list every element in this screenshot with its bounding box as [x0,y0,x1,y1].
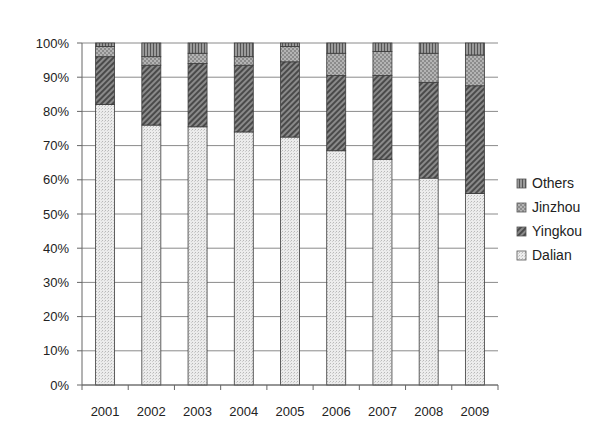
x-tick-label: 2004 [229,404,258,419]
legend: OthersJinzhouYingkouDalian [517,175,582,263]
segment-dalian [373,159,392,385]
segment-dalian [234,132,253,385]
bar-2007 [373,43,392,385]
segment-jinzhou [188,53,207,63]
y-tick-label: 50% [43,207,69,222]
segment-yingkou [465,86,484,194]
segment-yingkou [234,65,253,132]
legend-item-dalian: Dalian [517,247,572,263]
segment-jinzhou [281,46,300,61]
y-tick-label: 90% [43,70,69,85]
y-axis: 0%10%20%30%40%50%60%70%80%90%100% [36,36,82,393]
segment-jinzhou [373,52,392,76]
segment-others [419,43,438,53]
segment-dalian [465,193,484,385]
bar-2002 [142,43,161,385]
y-tick-label: 40% [43,241,69,256]
legend-label: Yingkou [532,223,582,239]
bars [96,43,485,385]
bar-2004 [234,43,253,385]
legend-item-jinzhou: Jinzhou [517,199,580,215]
segment-jinzhou [96,46,115,56]
y-tick-label: 30% [43,275,69,290]
y-tick-label: 80% [43,104,69,119]
bar-2005 [281,43,300,385]
segment-jinzhou [234,57,253,66]
segment-dalian [96,105,115,385]
x-tick-label: 2003 [183,404,212,419]
y-tick-label: 60% [43,172,69,187]
segment-yingkou [327,75,346,150]
segment-yingkou [142,65,161,125]
y-tick-label: 10% [43,343,69,358]
y-tick-label: 70% [43,138,69,153]
legend-label: Jinzhou [532,199,580,215]
x-tick-label: 2007 [368,404,397,419]
segment-yingkou [96,57,115,105]
y-tick-label: 0% [50,378,69,393]
segment-dalian [142,125,161,385]
x-tick-label: 2008 [414,404,443,419]
segment-dalian [188,127,207,385]
legend-swatch [517,251,526,260]
segment-yingkou [281,62,300,137]
bar-2009 [465,43,484,385]
segment-others [373,43,392,52]
x-tick-label: 2001 [91,404,120,419]
segment-others [142,43,161,57]
x-tick-label: 2006 [322,404,351,419]
segment-jinzhou [327,53,346,75]
segment-others [234,43,253,57]
legend-item-others: Others [517,175,574,191]
segment-yingkou [373,75,392,159]
y-tick-label: 100% [36,36,70,51]
legend-swatch [517,203,526,212]
bar-2006 [327,43,346,385]
legend-swatch [517,179,526,188]
segment-others [327,43,346,53]
x-axis: 200120022003200420052006200720082009 [82,385,498,419]
segment-dalian [419,178,438,385]
x-tick-label: 2009 [460,404,489,419]
legend-item-yingkou: Yingkou [517,223,582,239]
legend-swatch [517,227,526,236]
stacked-bar-chart: 0%10%20%30%40%50%60%70%80%90%100% 200120… [0,0,612,438]
segment-others [281,43,300,46]
x-tick-label: 2005 [276,404,305,419]
segment-others [465,43,484,55]
segment-others [188,43,207,53]
bar-2003 [188,43,207,385]
legend-label: Others [532,175,574,191]
segment-jinzhou [419,53,438,82]
y-tick-label: 20% [43,309,69,324]
segment-yingkou [419,82,438,178]
x-tick-label: 2002 [137,404,166,419]
segment-jinzhou [465,55,484,86]
segment-yingkou [188,64,207,127]
legend-label: Dalian [532,247,572,263]
segment-jinzhou [142,57,161,66]
segment-others [96,43,115,46]
bar-2001 [96,43,115,385]
bar-2008 [419,43,438,385]
segment-dalian [281,137,300,385]
segment-dalian [327,151,346,385]
